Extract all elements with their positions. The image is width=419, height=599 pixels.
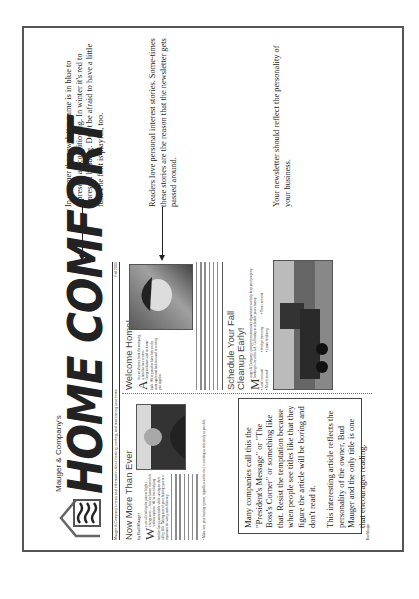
newsletter-title: HOME COMFORT	[62, 258, 110, 494]
photo-truck	[273, 260, 333, 390]
column-divider	[122, 393, 372, 394]
callout-paragraph-1: Many companies call this the "President'…	[243, 404, 317, 528]
article-body: M auger & Company's property maintenance…	[249, 262, 257, 390]
list-item: • Lawn fertilizing	[265, 318, 269, 352]
article-now-more-than-ever: Now More Than Ever by Bud Mauger W e are…	[124, 398, 206, 540]
article-body: A fter an absence from the company, a fa…	[137, 334, 193, 390]
article-heading-line2: Cleanup Early!	[236, 260, 246, 390]
page-frame: Mauger & Company's HOME COMFORT Mauger &…	[22, 26, 404, 552]
list-item: • Leaf removal	[260, 356, 264, 390]
article-body: W e are all feeling the pain of higher e…	[144, 474, 199, 540]
house-logo-icon	[58, 496, 102, 540]
tagline-bar: Mauger & Company's news and information …	[112, 262, 120, 540]
callout-box: Many companies call this the "President'…	[238, 398, 362, 534]
signature: Bud Mauger	[366, 523, 370, 540]
list-item: • Tree removal	[260, 280, 264, 314]
article-fall-cleanup: Schedule Your Fall Cleanup Early! M auge…	[226, 260, 333, 390]
drop-cap: M	[249, 378, 260, 390]
arrowhead-icon	[79, 255, 85, 261]
annotation-title-color: In summer the newsletter name is in blue…	[64, 35, 106, 207]
landscape-page: Mauger & Company's HOME COMFORT Mauger &…	[22, 26, 404, 552]
arrowhead-icon	[159, 255, 165, 261]
list-item: • Hedge trimming	[260, 318, 264, 352]
section-divider	[222, 262, 223, 390]
annotation-personal-stories: Readers love personal interest stories. …	[148, 35, 180, 207]
service-list: • Leaf removal • Hedge trimming • Tree r…	[260, 280, 269, 390]
drop-cap: A	[137, 381, 148, 390]
list-item: • Mulch install	[265, 356, 269, 390]
photo-bud-mauger	[136, 404, 186, 470]
drop-cap: W	[144, 528, 155, 540]
article-heading: Now More Than Ever	[124, 398, 134, 540]
annotation-personality: Your newsletter should reflect the perso…	[272, 35, 293, 207]
tagline: Mauger & Company's news and information …	[114, 389, 118, 540]
issue-date: Fall 2005	[114, 262, 118, 277]
arrow-to-photo	[162, 207, 163, 257]
article-bullet: • Make sure your heating system, regardl…	[202, 402, 206, 540]
newsletter-page: Mauger & Company's HOME COMFORT Mauger &…	[24, 255, 406, 540]
arrow-to-title	[82, 207, 83, 257]
callout-paragraph-2: This interesting article reflects the pe…	[325, 404, 367, 528]
photo-welcome-home	[129, 264, 193, 330]
article-welcome-home: Welcome Home! A fter an absence from the…	[124, 260, 220, 390]
